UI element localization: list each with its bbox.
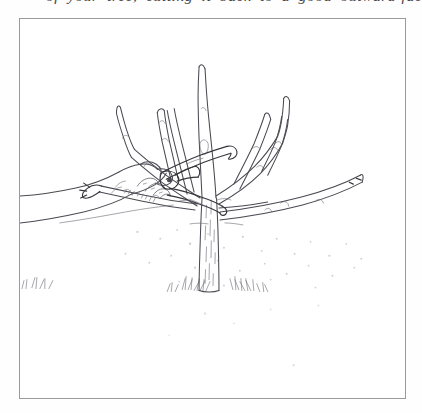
scaffold-branches — [60, 65, 363, 223]
pruning-illustration — [20, 19, 405, 398]
figure-frame — [19, 18, 406, 399]
scanned-page: of your tree, cutting it back to a good … — [0, 0, 422, 413]
caption-text: of your tree, cutting it back to a good … — [46, 0, 386, 5]
tree-trunk — [199, 198, 219, 292]
pruning-shears — [124, 146, 237, 215]
caption-strip: of your tree, cutting it back to a good … — [0, 0, 422, 14]
ground-stipple — [125, 229, 363, 366]
grass-tufts — [22, 277, 268, 292]
hand — [20, 162, 172, 223]
